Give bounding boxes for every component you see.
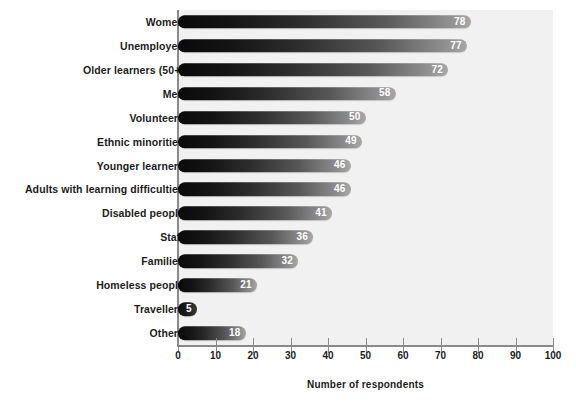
category-label: Travellers [134, 303, 184, 315]
bar-row: Younger learners46 [0, 154, 576, 178]
category-label: Disabled people [102, 207, 184, 219]
x-axis-title: Number of respondents [178, 379, 553, 390]
bar-value-label: 21 [240, 280, 252, 290]
bar-value-label: 36 [296, 232, 308, 242]
bar-row: Adults with learning difficulties46 [0, 178, 576, 202]
category-label: Homeless people [96, 279, 184, 291]
x-tick-label: 60 [383, 350, 423, 361]
bar-row: Homeless people21 [0, 273, 576, 297]
x-tick-label: 80 [458, 350, 498, 361]
bar-rows: Women78Unemployed77Older learners (50+)7… [0, 10, 576, 345]
category-label: Volunteers [130, 112, 184, 124]
bar: 72 [178, 63, 448, 77]
category-label: Older learners (50+) [83, 64, 184, 76]
x-tick-label: 30 [271, 350, 311, 361]
bar-row: Unemployed77 [0, 34, 576, 58]
category-label: Younger learners [97, 160, 184, 172]
x-tick-label: 70 [421, 350, 461, 361]
x-tick-label: 40 [308, 350, 348, 361]
bar-value-label: 32 [281, 256, 293, 266]
bar: 46 [178, 159, 351, 173]
bar-value-label: 5 [186, 304, 192, 314]
bar: 77 [178, 39, 467, 53]
bar-value-label: 50 [349, 113, 361, 123]
bar-row: Disabled people41 [0, 201, 576, 225]
bar-value-label: 18 [229, 328, 241, 338]
bar-row: Ethnic minorities49 [0, 130, 576, 154]
bar: 46 [178, 183, 351, 197]
x-tick-label: 20 [233, 350, 273, 361]
bar-value-label: 77 [450, 41, 462, 51]
x-tick-label: 50 [346, 350, 386, 361]
category-label: Ethnic minorities [97, 136, 184, 148]
bar-value-label: 41 [315, 208, 327, 218]
bar-value-label: 46 [334, 184, 346, 194]
bar: 18 [178, 326, 246, 340]
bar-value-label: 58 [379, 89, 391, 99]
bar-value-label: 72 [431, 65, 443, 75]
bar-value-label: 46 [334, 161, 346, 171]
bar-chart: Women78Unemployed77Older learners (50+)7… [0, 0, 576, 404]
bar-row: Families32 [0, 249, 576, 273]
bar: 41 [178, 207, 332, 221]
bar-row: Staff36 [0, 225, 576, 249]
x-tick-label: 100 [533, 350, 573, 361]
x-tick-label: 0 [158, 350, 198, 361]
bar: 36 [178, 231, 313, 245]
bar-row: Women78 [0, 10, 576, 34]
bar: 49 [178, 135, 362, 149]
bar-row: Others18 [0, 321, 576, 345]
category-label: Unemployed [120, 40, 184, 52]
x-tick-label: 90 [496, 350, 536, 361]
bar-row: Men58 [0, 82, 576, 106]
bar: 58 [178, 87, 396, 101]
bar-row: Volunteers50 [0, 106, 576, 130]
x-tick-label: 10 [196, 350, 236, 361]
bar-value-label: 49 [345, 137, 357, 147]
bar: 21 [178, 278, 257, 292]
category-label: Adults with learning difficulties [25, 183, 184, 195]
bar-row: Travellers5 [0, 297, 576, 321]
bar: 78 [178, 15, 471, 29]
bar-row: Older learners (50+)72 [0, 58, 576, 82]
bar: 50 [178, 111, 366, 125]
bar-value-label: 78 [454, 17, 466, 27]
bar: 5 [178, 302, 197, 316]
bar: 32 [178, 254, 298, 268]
